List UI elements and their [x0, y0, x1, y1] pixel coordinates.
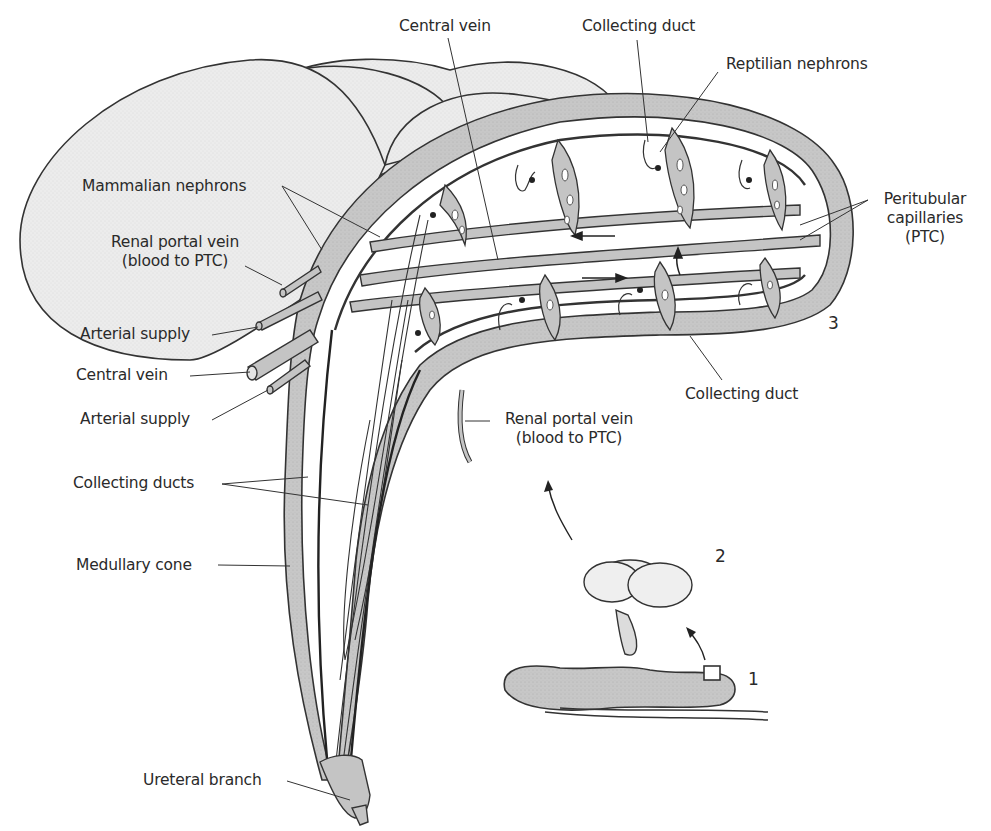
label-renal-portal-vein-bottom-line1: Renal portal vein [494, 410, 644, 429]
arrow-1-to-2-head [686, 627, 696, 638]
label-peritubular-line3: (PTC) [870, 228, 980, 247]
label-renal-portal-vein-left-line1: Renal portal vein [101, 233, 249, 252]
label-arterial-supply-2: Arterial supply [80, 410, 190, 429]
label-peritubular-line2: capillaries [870, 209, 980, 228]
label-renal-portal-vein-bottom: Renal portal vein (blood to PTC) [494, 410, 644, 448]
label-arterial-supply-1: Arterial supply [80, 325, 190, 344]
panel-number-2: 2 [715, 547, 726, 566]
label-renal-portal-vein-bottom-line2: (blood to PTC) [494, 429, 644, 448]
renal-portal-vein-fill [460, 390, 470, 462]
label-central-vein-left: Central vein [76, 366, 168, 385]
arrow-2-to-3-head [544, 480, 553, 492]
ureteral-branch-shape [320, 755, 370, 825]
label-central-vein-top: Central vein [399, 17, 491, 36]
panel-number-1: 1 [748, 670, 759, 689]
label-collecting-duct-top: Collecting duct [582, 17, 695, 36]
arrow-2-to-3 [548, 485, 572, 540]
arrow-1-to-2 [690, 632, 705, 660]
panel-number-3: 3 [828, 314, 839, 333]
label-medullary-cone: Medullary cone [76, 556, 192, 575]
label-collecting-duct-bottom: Collecting duct [685, 385, 798, 404]
label-collecting-ducts: Collecting ducts [73, 474, 194, 493]
label-renal-portal-vein-left: Renal portal vein (blood to PTC) [101, 233, 249, 271]
panel-2-kidney [584, 560, 692, 655]
label-reptilian-nephrons: Reptilian nephrons [726, 55, 868, 74]
label-mammalian-nephrons: Mammalian nephrons [82, 177, 246, 196]
label-renal-portal-vein-left-line2: (blood to PTC) [101, 252, 249, 271]
label-peritubular-capillaries: Peritubular capillaries (PTC) [870, 190, 980, 247]
label-peritubular-line1: Peritubular [870, 190, 980, 209]
panel-1-kidney [504, 666, 768, 720]
label-ureteral-branch: Ureteral branch [143, 771, 262, 790]
